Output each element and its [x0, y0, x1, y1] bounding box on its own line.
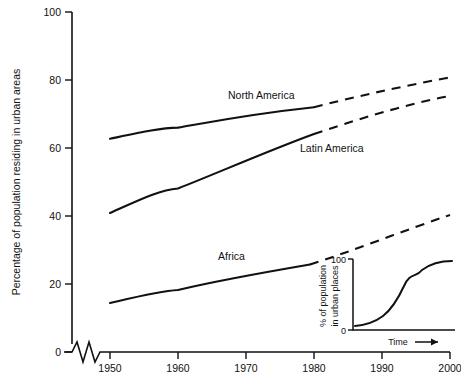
- inset-y-tick-label-100: 100: [331, 255, 346, 265]
- inset-time-arrow-icon: [415, 339, 438, 346]
- y-tick-label-100: 100: [43, 6, 61, 18]
- x-tick-label-1970: 1970: [234, 362, 258, 374]
- inset-y-axis-title-line2: in urban places: [330, 265, 340, 327]
- x-tick-label-1960: 1960: [166, 362, 190, 374]
- y-tick-label-20: 20: [49, 278, 61, 290]
- y-tick-label-60: 60: [49, 142, 61, 154]
- series-label-latin-america: Latin America: [300, 142, 364, 154]
- series-label-africa: Africa: [218, 250, 245, 262]
- x-tick-label-1980: 1980: [302, 362, 326, 374]
- inset-y-tick-label-0: 0: [341, 326, 346, 336]
- x-tick-label-1990: 1990: [370, 362, 394, 374]
- y-tick-label-0: 0: [55, 346, 61, 358]
- latin-america-observed-line: [110, 134, 314, 213]
- inset-y-axis-title-line1: % of population: [318, 265, 328, 327]
- y-tick-label-80: 80: [49, 74, 61, 86]
- inset-x-axis-title: Time: [388, 337, 408, 347]
- inset-chart: 100 0 % of population in urban places Ti…: [318, 255, 455, 347]
- north-america-projected-line: [314, 78, 450, 108]
- north-america-observed-line: [110, 107, 314, 139]
- africa-observed-line: [110, 265, 310, 304]
- inset-axes-lines: [353, 259, 455, 330]
- chart-figure: 100 80 60 40 20 0 Percentage of populati…: [0, 0, 461, 381]
- series-africa: Africa: [110, 215, 450, 303]
- y-axis: 100 80 60 40 20 0 Percentage of populati…: [10, 6, 72, 358]
- x-axis: 1950 1960 1970 1980 1990 2000: [98, 352, 461, 374]
- urbanization-line-chart: 100 80 60 40 20 0 Percentage of populati…: [0, 0, 461, 381]
- series-latin-america: Latin America: [110, 96, 450, 213]
- y-tick-label-40: 40: [49, 210, 61, 222]
- inset-s-curve: [355, 261, 452, 326]
- x-tick-label-2000: 2000: [438, 362, 461, 374]
- x-tick-label-1950: 1950: [98, 362, 122, 374]
- series-label-north-america: North America: [228, 89, 295, 101]
- y-axis-title: Percentage of population residing in urb…: [10, 69, 22, 296]
